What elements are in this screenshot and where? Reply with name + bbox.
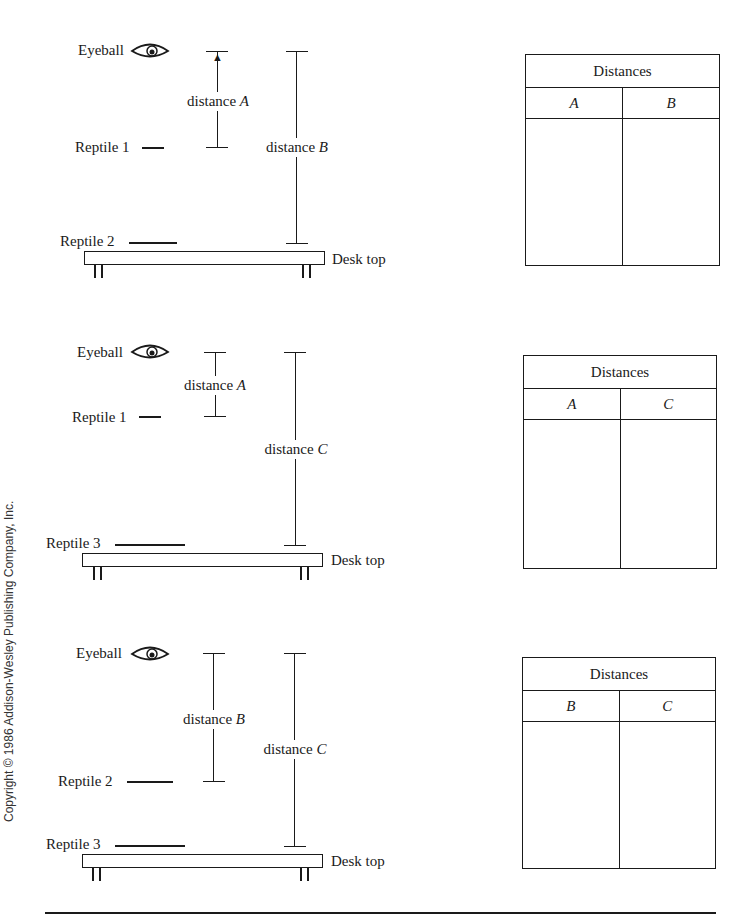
reptile-2-line [127,781,173,783]
desk-leg [94,265,96,278]
eyeball-label: Eyeball [76,646,122,661]
tick [286,51,308,52]
desk-top-label: Desk top [332,252,386,267]
table-cell[interactable] [623,119,720,266]
arrow-up-icon: ▲ [212,52,223,63]
desk-leg [307,868,309,881]
distances-table-2: Distances A C [523,355,717,569]
column-header: B [523,691,620,722]
table-cell[interactable] [619,722,716,869]
eyeball-label: Eyeball [77,345,123,360]
table-cell[interactable] [620,420,717,569]
table-cell[interactable] [526,119,623,266]
eyeball-label: Eyeball [78,43,124,58]
table-title: Distances [523,658,716,691]
desk-leg [99,868,101,881]
column-header: B [623,88,720,119]
desk-top [84,251,325,265]
desk-leg [101,265,103,278]
table-title: Distances [524,356,717,389]
reptile-3-label: Reptile 3 [46,536,101,551]
column-header: C [619,691,716,722]
distance-a-label: distance A [187,92,249,111]
distance-b-label: distance B [183,710,245,729]
desk-top-label: Desk top [331,854,385,869]
column-header: A [526,88,623,119]
desk-leg [309,265,311,278]
desk-leg [300,868,302,881]
eye-icon [130,645,170,663]
reptile-1-line [139,416,161,418]
table-title: Distances [526,55,720,88]
reptile-2-label: Reptile 2 [60,234,115,249]
reptile-3-line [115,544,185,546]
desk-leg [307,567,309,580]
column-header: A [524,389,621,420]
eye-icon [130,42,170,60]
desk-leg [302,265,304,278]
reptile-3-line [115,845,185,847]
copyright-notice: Copyright © 1986 Addison-Wesley Publishi… [2,501,16,822]
reptile-1-label: Reptile 1 [75,140,130,155]
tick [203,781,225,782]
distances-table-1: Distances A B [525,54,720,266]
table-cell[interactable] [524,420,621,569]
distance-c-label: distance C [265,440,328,459]
tick [204,416,226,417]
tick [203,653,225,654]
desk-leg [300,567,302,580]
distances-table-3: Distances B C [522,657,716,869]
distance-c-label: distance C [264,740,327,759]
desk-leg [100,567,102,580]
column-header: C [620,389,717,420]
distance-a-label: distance A [184,376,246,395]
reptile-1-label: Reptile 1 [72,410,127,425]
desk-top-label: Desk top [331,553,385,568]
eye-icon [130,343,170,361]
reptile-3-label: Reptile 3 [46,837,101,852]
tick [286,243,308,244]
reptile-2-line [129,242,177,244]
table-cell[interactable] [523,722,620,869]
tick [284,846,306,847]
tick [284,545,306,546]
tick [284,653,306,654]
reptile-2-label: Reptile 2 [58,774,113,789]
desk-leg [92,868,94,881]
distance-b-label: distance B [266,138,328,157]
tick [206,147,228,148]
desk-leg [93,567,95,580]
footer-rule [45,912,716,914]
reptile-1-line [142,147,164,149]
desk-top [82,553,323,567]
desk-top [82,854,323,868]
